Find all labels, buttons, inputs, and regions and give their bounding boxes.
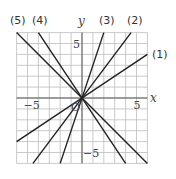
line-label-2: (2): [127, 14, 143, 27]
line-label-3: (3): [99, 14, 115, 27]
x-tick-label: −5: [24, 99, 40, 112]
y-axis-label: y: [77, 14, 85, 28]
x-axis-label: x: [150, 91, 157, 105]
x-tick-label: 5: [134, 99, 141, 112]
coordinate-plane: (1)(2)(3)(4)(5)xyO−555−5: [0, 0, 176, 179]
line-label-1: (1): [152, 48, 168, 61]
line-label-4: (4): [32, 14, 48, 27]
origin-label: O: [71, 101, 80, 114]
y-tick-label: −5: [83, 147, 99, 160]
line-label-5: (5): [10, 14, 26, 27]
y-tick-label: 5: [73, 38, 80, 51]
